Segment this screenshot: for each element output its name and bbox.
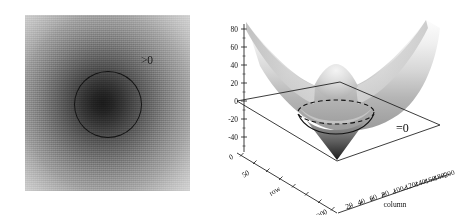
zero-plane-label: =0: [396, 121, 409, 135]
row-axis: 0 50 200 row: [227, 152, 337, 215]
column-axis-title: column: [384, 200, 407, 209]
figure-two-panel: >0: [0, 0, 458, 215]
row-tick-50: 50: [240, 168, 251, 180]
row-tick-0: 0: [227, 152, 235, 162]
column-axis: 20 40 60 80 100 120 140 160 180 200 colu…: [338, 167, 456, 213]
row-tick-200: 200: [315, 207, 329, 215]
z-tick-neg40: -40: [228, 133, 238, 142]
column-tick-200: 200: [442, 167, 456, 179]
positive-region-label: >0: [141, 54, 153, 66]
column-tick-60: 60: [368, 192, 378, 203]
column-tick-80: 80: [380, 188, 390, 199]
column-tick-100: 100: [391, 183, 405, 195]
z-tick-40: 40: [231, 61, 239, 70]
z-tick-20: 20: [231, 79, 239, 88]
z-axis: 80 60 40 20 0 -20 -40: [228, 24, 247, 152]
z-tick-80: 80: [231, 25, 239, 34]
surface-plot-svg: 80 60 40 20 0 -20 -40: [210, 8, 458, 215]
right-panel-surface-plot: 80 60 40 20 0 -20 -40: [210, 8, 458, 215]
left-panel-grayscale-image: >0: [25, 15, 190, 191]
z-tick-neg20: -20: [228, 115, 238, 124]
zero-level-circle-contour: [74, 71, 142, 138]
z-tick-60: 60: [231, 43, 239, 52]
column-tick-40: 40: [356, 196, 366, 207]
column-tick-20: 20: [344, 200, 354, 211]
row-axis-title: row: [267, 184, 282, 198]
surface-mesh: [246, 20, 440, 160]
